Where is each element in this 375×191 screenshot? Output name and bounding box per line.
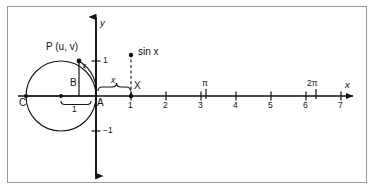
- pi-label: π: [202, 79, 208, 88]
- y-axis-label: y: [100, 18, 105, 28]
- y-tick-label-1: 1: [103, 56, 108, 65]
- x-tick-label-4: 4: [233, 101, 238, 110]
- x-tick-label-5: 5: [268, 101, 273, 110]
- point-p-label: P (u, v): [46, 42, 78, 52]
- point-b-label: B: [70, 78, 77, 88]
- arc-x-label: x: [82, 62, 86, 71]
- radius-length-label: 1: [72, 105, 77, 114]
- origin-a-label: A: [97, 98, 104, 108]
- x-tick-label-1: 1: [128, 101, 133, 110]
- x-tick-label-3: 3: [198, 101, 203, 110]
- arclength-x-label: x: [111, 76, 115, 85]
- figure-graphics: [0, 0, 375, 191]
- point-center: [59, 94, 63, 98]
- pi-ticks: [206, 89, 316, 99]
- y-tick-label-neg1: −1: [103, 126, 113, 135]
- two-pi-label: 2π: [307, 79, 318, 88]
- point-x-label: X: [134, 81, 141, 91]
- x-tick-label-7: 7: [338, 101, 343, 110]
- x-tick-label-2: 2: [163, 101, 168, 110]
- x-tick-label-6: 6: [303, 101, 308, 110]
- sin-x-label: sin x: [138, 47, 159, 57]
- point-c-label: C: [19, 98, 26, 108]
- figure-canvas: P (u, v) C B 1 x A y x 1 −1 x X sin x π …: [0, 0, 375, 191]
- x-axis-label: x: [345, 80, 350, 90]
